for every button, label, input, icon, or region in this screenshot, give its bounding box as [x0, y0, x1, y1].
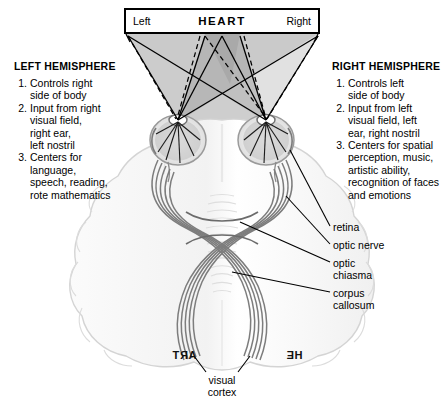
left-hemisphere-panel: LEFT HEMISPHERE 1. Controls right side o…	[14, 60, 140, 201]
list-item: 1. Controls left side of body	[332, 77, 444, 102]
label-optic-nerve: optic nerve	[333, 240, 384, 252]
list-item-line: Controls right	[30, 77, 140, 89]
label-line: corpus	[333, 288, 374, 300]
list-item-line: Input from left	[348, 102, 444, 114]
list-item-line: side of body	[30, 89, 140, 101]
projected-fragment-he: HE	[286, 349, 302, 361]
label-line: visual	[186, 374, 258, 386]
list-item-line: rote mathematics	[30, 189, 140, 201]
stimulus-box: Left HEART Right	[124, 8, 320, 34]
stimulus-right-label: Right	[286, 15, 311, 27]
list-item-line: and emotions	[348, 189, 444, 201]
right-hemisphere-panel: RIGHT HEMISPHERE 1. Controls left side o…	[332, 60, 444, 201]
list-item: 1. Controls right side of body	[14, 77, 140, 102]
label-visual-cortex: visual cortex	[186, 374, 258, 399]
list-item-line: visual field, left	[348, 114, 444, 126]
list-item-line: artistic ability,	[348, 164, 444, 176]
list-item-line: language,	[30, 164, 140, 176]
list-item-line: visual field,	[30, 114, 140, 126]
left-hemisphere-list: 1. Controls right side of body 2. Input …	[14, 77, 140, 201]
label-line: callosum	[333, 300, 374, 312]
list-item-number: 3.	[14, 151, 27, 163]
list-item-line: right ear,	[30, 127, 140, 139]
list-item-number: 1.	[14, 77, 27, 89]
list-item-number: 3.	[332, 139, 345, 151]
list-item: 3. Centers for language, speech, reading…	[14, 151, 140, 201]
list-item-line: side of body	[348, 89, 444, 101]
label-corpus-callosum: corpus callosum	[333, 288, 374, 311]
list-item-line: ear, right nostril	[348, 127, 444, 139]
label-line: optic	[333, 258, 372, 270]
list-item-line: perception, music,	[348, 151, 444, 163]
right-hemisphere-title: RIGHT HEMISPHERE	[332, 60, 444, 72]
list-item-line: Centers for spatial	[348, 139, 444, 151]
list-item-line: recognition of faces	[348, 176, 444, 188]
list-item-line: Centers for	[30, 151, 140, 163]
list-item-number: 2.	[332, 102, 345, 114]
diagram-canvas: Left HEART Right LEFT HEMISPHERE 1. Cont…	[0, 0, 444, 406]
list-item: 2. Input from left visual field, left ea…	[332, 102, 444, 139]
label-retina: retina	[333, 222, 359, 234]
label-line: chiasma	[333, 270, 372, 282]
list-item-number: 2.	[14, 102, 27, 114]
left-hemisphere-title: LEFT HEMISPHERE	[14, 60, 140, 72]
list-item-line: left nostril	[30, 139, 140, 151]
label-optic-chiasma: optic chiasma	[333, 258, 372, 281]
label-line: cortex	[186, 386, 258, 398]
list-item-line: Controls left	[348, 77, 444, 89]
list-item-line: speech, reading,	[30, 176, 140, 188]
list-item: 2. Input from right visual field, right …	[14, 102, 140, 152]
list-item: 3. Centers for spatial perception, music…	[332, 139, 444, 201]
list-item-line: Input from right	[30, 102, 140, 114]
list-item-number: 1.	[332, 77, 345, 89]
projected-fragment-art: ART	[172, 349, 196, 361]
right-hemisphere-list: 1. Controls left side of body 2. Input f…	[332, 77, 444, 201]
